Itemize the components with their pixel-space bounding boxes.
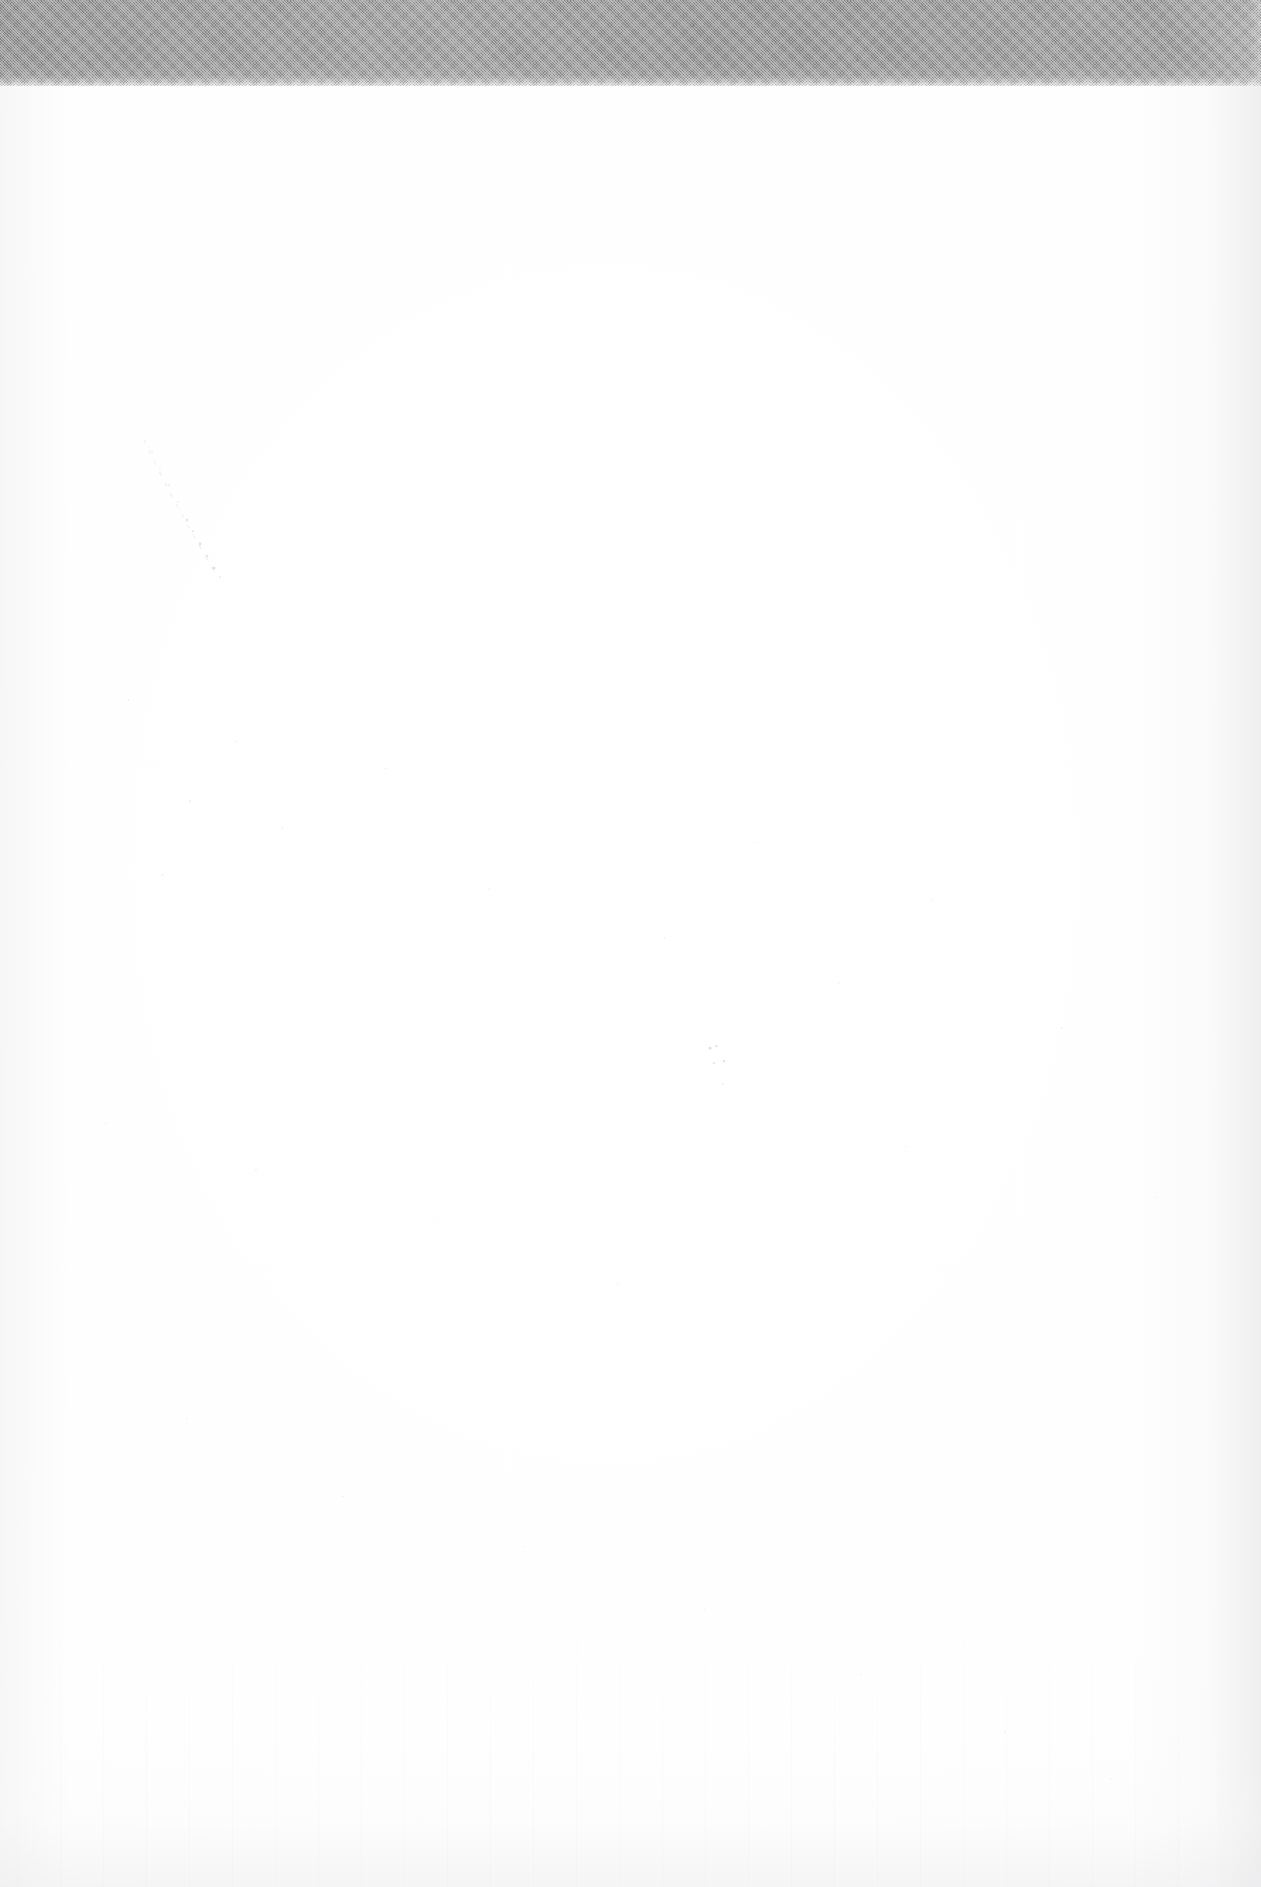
band-mottle-texture [0,0,1261,86]
top-gray-band [0,0,1261,86]
bottom-edge-shading [0,1737,1261,1887]
right-edge-shading [1131,86,1261,1887]
left-edge-shading [0,86,70,1887]
scanned-page [0,0,1261,1887]
ink-fleck-cluster-icon [700,1038,746,1072]
